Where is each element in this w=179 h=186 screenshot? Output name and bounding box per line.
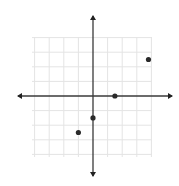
data-point — [90, 115, 95, 120]
x-axis-right-arrow-icon — [168, 93, 173, 99]
axes — [17, 15, 173, 177]
data-point — [146, 57, 151, 62]
grid — [32, 37, 152, 157]
y-axis-up-arrow-icon — [90, 15, 96, 20]
x-axis-left-arrow-icon — [17, 93, 22, 99]
data-point — [76, 130, 81, 135]
data-point — [112, 93, 117, 98]
y-axis-down-arrow-icon — [90, 172, 96, 177]
coordinate-plane — [0, 0, 179, 186]
